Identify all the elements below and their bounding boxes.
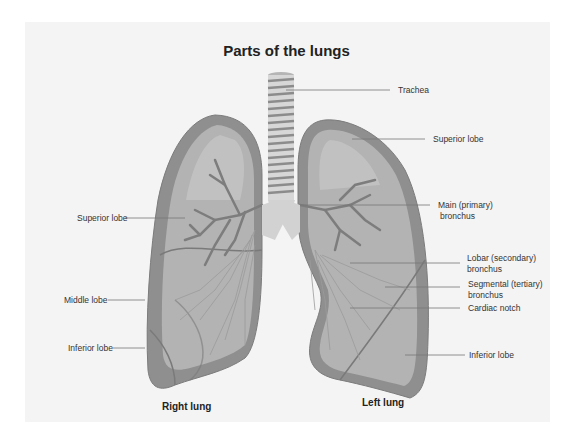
- label-main-bronchus-line1: Main (primary): [438, 200, 493, 211]
- left-lung-shape: [298, 120, 428, 398]
- label-left-inferior-lobe: Inferior lobe: [469, 350, 514, 361]
- label-right-inferior-lobe: Inferior lobe: [68, 343, 113, 354]
- label-cardiac-notch: Cardiac notch: [468, 303, 520, 314]
- label-left-lung: Left lung: [362, 397, 404, 408]
- right-lung-shape: [147, 115, 262, 388]
- label-right-middle-lobe: Middle lobe: [64, 295, 107, 306]
- label-lobar-bronchus-line1: Lobar (secondary): [467, 253, 536, 264]
- label-right-superior-lobe: Superior lobe: [77, 213, 128, 224]
- label-lobar-bronchus-line2: bronchus: [467, 264, 502, 275]
- label-main-bronchus-line2: bronchus: [440, 211, 475, 222]
- label-left-superior-lobe: Superior lobe: [433, 134, 484, 145]
- label-right-lung: Right lung: [162, 401, 211, 412]
- trachea-shape: [262, 72, 300, 240]
- label-segmental-bronchus-line2: bronchus: [468, 290, 503, 301]
- label-trachea: Trachea: [398, 85, 429, 96]
- label-segmental-bronchus-line1: Segmental (tertiary): [468, 279, 543, 290]
